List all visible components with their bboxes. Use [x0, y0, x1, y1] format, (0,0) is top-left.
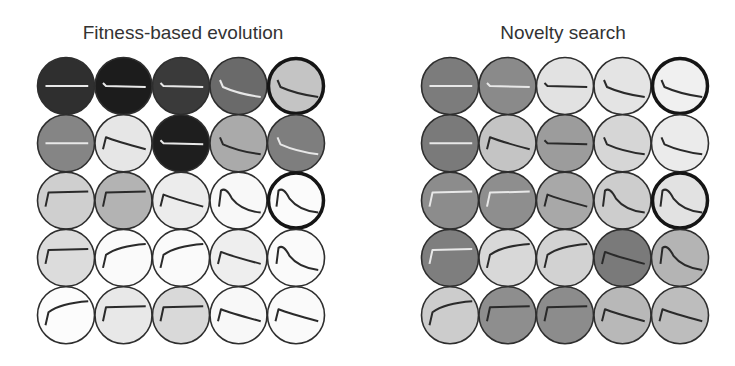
- behavior-circle: [537, 229, 594, 286]
- behavior-circle: [422, 58, 479, 115]
- circle-shape: [210, 115, 267, 172]
- behavior-circle: [153, 58, 210, 115]
- circle-shape: [153, 229, 210, 286]
- circle-shape: [210, 172, 267, 229]
- behavior-circle: [269, 173, 324, 228]
- circle-shape: [38, 287, 95, 344]
- behavior-circle: [594, 229, 651, 286]
- diagram-canvas: [0, 0, 735, 366]
- behavior-circle: [479, 115, 536, 172]
- behavior-circle: [594, 172, 651, 229]
- circle-shape: [269, 59, 324, 114]
- behavior-circle: [537, 115, 594, 172]
- behavior-circle: [153, 172, 210, 229]
- behavior-circle: [422, 115, 479, 172]
- behavior-circle: [210, 115, 267, 172]
- behavior-circle: [38, 172, 95, 229]
- circle-shape: [594, 58, 651, 115]
- behavior-circle: [210, 172, 267, 229]
- circle-shape: [268, 115, 325, 172]
- behavior-circle: [210, 58, 267, 115]
- behavior-circle: [479, 58, 536, 115]
- fitness-grid: [38, 58, 325, 344]
- circle-shape: [479, 229, 536, 286]
- behavior-circle: [38, 229, 95, 286]
- behavior-circle: [537, 172, 594, 229]
- circle-shape: [268, 229, 325, 286]
- behavior-circle: [95, 172, 152, 229]
- behavior-circle: [210, 287, 267, 344]
- behavior-circle: [594, 287, 651, 344]
- behavior-circle: [422, 229, 479, 286]
- behavior-circle: [479, 172, 536, 229]
- behavior-circle: [153, 115, 210, 172]
- behavior-circle: [537, 287, 594, 344]
- behavior-circle: [653, 59, 708, 114]
- circle-shape: [594, 172, 651, 229]
- behavior-circle: [652, 229, 709, 286]
- behavior-circle: [268, 229, 325, 286]
- behavior-circle: [652, 287, 709, 344]
- behavior-circle: [653, 173, 708, 228]
- behavior-circle: [95, 115, 152, 172]
- behavior-circle: [210, 229, 267, 286]
- behavior-circle: [594, 115, 651, 172]
- circle-shape: [652, 115, 709, 172]
- behavior-circle: [422, 287, 479, 344]
- circle-shape: [210, 58, 267, 115]
- circle-shape: [422, 287, 479, 344]
- circle-shape: [537, 229, 594, 286]
- behavior-circle: [153, 287, 210, 344]
- circle-shape: [653, 59, 708, 114]
- novelty-grid: [422, 58, 709, 344]
- behavior-circle: [594, 58, 651, 115]
- behavior-circle: [38, 58, 95, 115]
- behavior-circle: [95, 58, 152, 115]
- circle-shape: [652, 229, 709, 286]
- behavior-circle: [652, 115, 709, 172]
- behavior-circle: [422, 172, 479, 229]
- behavior-circle: [153, 229, 210, 286]
- circle-shape: [95, 229, 152, 286]
- behavior-circle: [479, 229, 536, 286]
- behavior-circle: [95, 287, 152, 344]
- behavior-circle: [268, 287, 325, 344]
- behavior-circle: [38, 287, 95, 344]
- behavior-circle: [269, 59, 324, 114]
- behavior-circle: [95, 229, 152, 286]
- behavior-circle: [38, 115, 95, 172]
- behavior-circle: [479, 287, 536, 344]
- behavior-circle: [537, 58, 594, 115]
- circle-shape: [594, 115, 651, 172]
- behavior-circle: [268, 115, 325, 172]
